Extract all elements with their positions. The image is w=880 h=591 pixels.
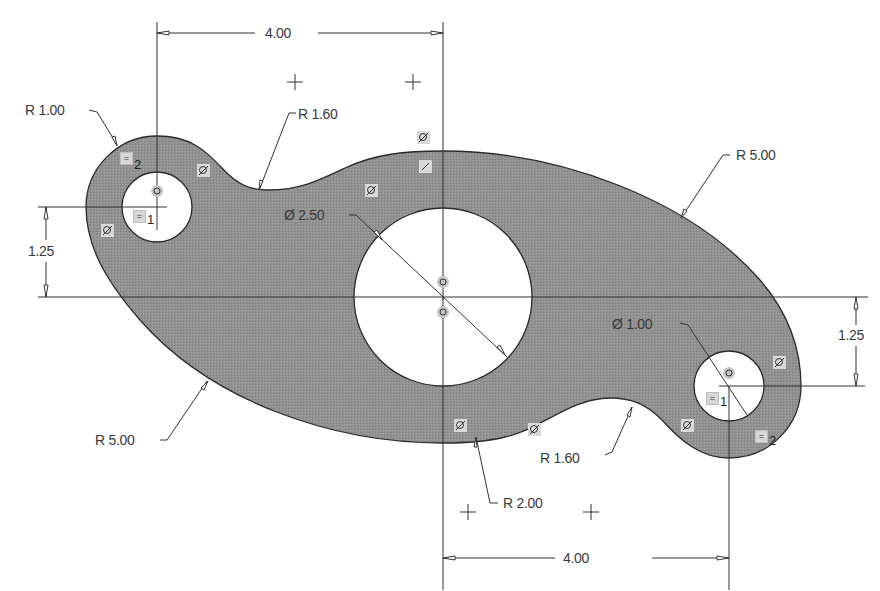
dim-dia100-label[interactable]: Ø 1.00 [612, 316, 652, 332]
dim-r1-left-label[interactable]: R 1.00 [25, 102, 64, 118]
leader-r160-top [260, 113, 296, 188]
leader-r1-left [89, 110, 116, 143]
equal-constraint-index: 2 [769, 434, 776, 447]
dim-r160-top-label[interactable]: R 1.60 [298, 106, 337, 122]
equal-constraint-index: 1 [147, 213, 154, 226]
parallel-constraint-icon[interactable] [419, 160, 432, 173]
dim-top-4-label[interactable]: 4.00 [265, 25, 291, 41]
leader-r5-bottom [160, 381, 207, 440]
equal-constraint-icon[interactable]: = [706, 392, 719, 405]
dim-dia250-label[interactable]: Ø 2.50 [284, 207, 324, 223]
dim-r160-bottom-label[interactable]: R 1.60 [540, 450, 579, 466]
coincident-constraint-icon[interactable] [151, 185, 163, 197]
cross-r2-bottom-center [460, 504, 476, 520]
tangent-constraint-icon[interactable] [365, 184, 378, 197]
leader-r2-bottom [476, 437, 498, 503]
dim-r5-bottom-label[interactable]: R 5.00 [95, 432, 134, 448]
cross-r160-bottom-center [583, 504, 599, 520]
tangent-constraint-icon[interactable] [773, 356, 786, 369]
cross-r5-top-center [405, 74, 421, 90]
equal-constraint-index: 1 [720, 395, 727, 408]
coincident-constraint-icon[interactable] [437, 306, 449, 318]
equal-constraint-icon[interactable]: = [755, 430, 768, 443]
equal-constraint-icon[interactable]: = [133, 210, 146, 223]
coincident-constraint-icon[interactable] [723, 367, 735, 379]
tangent-constraint-icon[interactable] [417, 131, 430, 144]
tangent-constraint-icon[interactable] [101, 224, 114, 237]
tangent-constraint-icon[interactable] [681, 419, 694, 432]
equal-constraint-icon[interactable]: = [120, 152, 133, 165]
dim-left-1-25-label[interactable]: 1.25 [28, 243, 54, 259]
tangent-constraint-icon[interactable] [197, 164, 210, 177]
leader-r5-top [681, 155, 730, 218]
tangent-constraint-icon[interactable] [528, 423, 541, 436]
tangent-constraint-icon[interactable] [454, 419, 467, 432]
equal-constraint-index: 2 [134, 158, 141, 171]
cross-r160-top-center [287, 74, 303, 90]
dim-bottom-4-label[interactable]: 4.00 [563, 550, 589, 566]
dim-r2-bottom-label[interactable]: R 2.00 [503, 495, 542, 511]
dim-top-4 [157, 31, 443, 35]
sketch-canvas[interactable] [0, 0, 880, 591]
dim-r5-top-label[interactable]: R 5.00 [736, 147, 775, 163]
coincident-constraint-icon[interactable] [437, 276, 449, 288]
dim-right-1-25-label[interactable]: 1.25 [838, 327, 864, 343]
